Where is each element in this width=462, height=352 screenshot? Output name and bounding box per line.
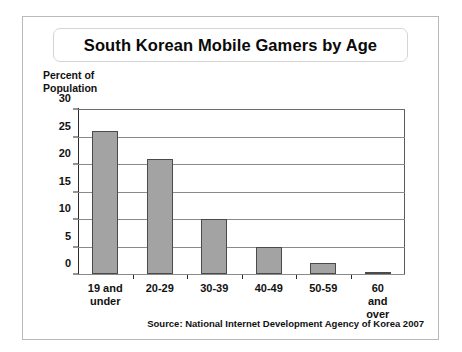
bar [201, 219, 227, 274]
x-tick-label: 40-49 [255, 282, 283, 295]
y-tick-label: 20 [59, 147, 71, 159]
bar [256, 247, 282, 275]
plot-area: 051015202530 19 and under20-2930-3940-49… [78, 109, 405, 275]
x-tick-mark [133, 275, 134, 279]
y-tick-label: 15 [59, 175, 71, 187]
x-tick-label: 60 and over [364, 282, 391, 321]
gridline [78, 137, 405, 138]
y-tick-mark [73, 219, 78, 220]
bar [365, 272, 391, 275]
page-title: South Korean Mobile Gamers by Age [84, 36, 377, 55]
chart-figure: South Korean Mobile Gamers by Age Percen… [0, 0, 462, 352]
chart-title-box: South Korean Mobile Gamers by Age [53, 28, 408, 62]
y-axis-label: Percent of Population [43, 69, 97, 94]
gridline [78, 164, 405, 165]
x-tick-label: 50-59 [309, 282, 337, 295]
y-tick-mark [73, 191, 78, 192]
source-note: Source: National Internet Development Ag… [147, 318, 424, 329]
bar [92, 131, 118, 274]
gridline [78, 109, 405, 110]
y-tick-mark [73, 136, 78, 137]
x-tick-label: 20-29 [146, 282, 174, 295]
bar [147, 159, 173, 275]
y-tick-label: 5 [65, 230, 71, 242]
x-tick-mark [242, 275, 243, 279]
y-tick-mark [73, 246, 78, 247]
y-tick-label: 30 [59, 92, 71, 104]
gridline [78, 192, 405, 193]
y-tick-label: 10 [59, 202, 71, 214]
gridline [78, 247, 405, 248]
chart-frame: South Korean Mobile Gamers by Age Percen… [22, 16, 439, 340]
y-tick-mark [73, 109, 78, 110]
gridline [78, 219, 405, 220]
y-tick-label: 25 [59, 120, 71, 132]
x-tick-label: 30-39 [200, 282, 228, 295]
x-tick-label: 19 and under [88, 282, 123, 308]
x-tick-mark [187, 275, 188, 279]
y-tick-label: 0 [65, 257, 71, 269]
y-tick-mark [73, 274, 78, 275]
y-tick-mark [73, 164, 78, 165]
x-tick-mark [351, 275, 352, 279]
bar [310, 263, 336, 274]
x-tick-mark [296, 275, 297, 279]
